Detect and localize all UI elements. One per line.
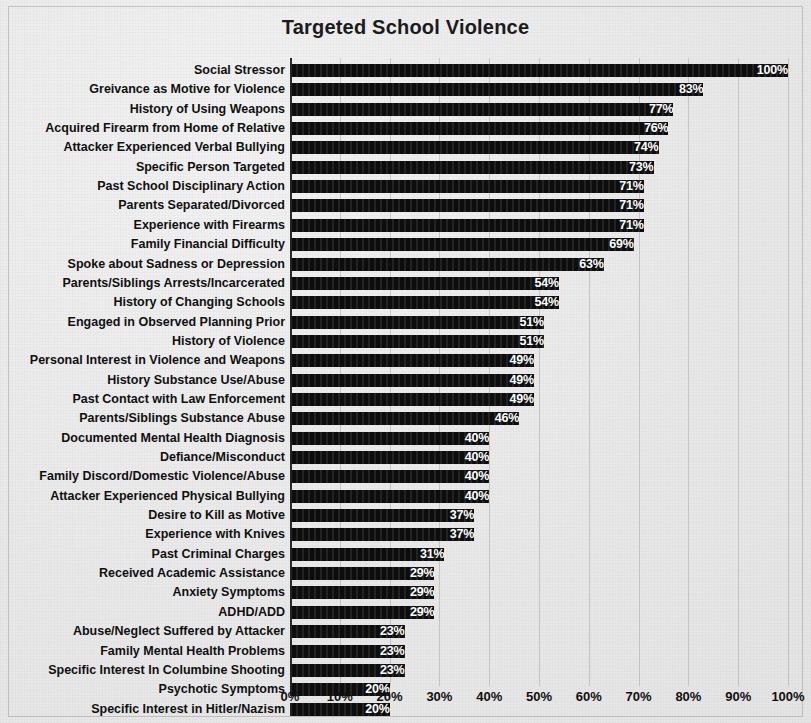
x-axis-tick: 40% bbox=[476, 689, 502, 704]
bar-row: History of Changing Schools54% bbox=[0, 294, 811, 313]
bar-value-label: 69% bbox=[290, 238, 636, 251]
bar-value-label: 40% bbox=[290, 432, 491, 445]
bar-value-label: 37% bbox=[290, 509, 476, 522]
bar-track: 40% bbox=[290, 451, 788, 464]
bar-category-label: Anxiety Symptoms bbox=[172, 585, 285, 599]
bar-category-label: Specific Interest In Columbine Shooting bbox=[48, 663, 285, 677]
bar-row: Received Academic Assistance29% bbox=[0, 565, 811, 584]
bar-track: 29% bbox=[290, 606, 788, 619]
bar-row: Experience with Knives37% bbox=[0, 526, 811, 545]
bar-value-label: 29% bbox=[290, 586, 436, 599]
bar-track: 40% bbox=[290, 490, 788, 503]
bar-row: Anxiety Symptoms29% bbox=[0, 584, 811, 603]
bar-row: Specific Interest In Columbine Shooting2… bbox=[0, 662, 811, 681]
bar-value-label: 100% bbox=[290, 64, 790, 77]
bar-value-label: 40% bbox=[290, 490, 491, 503]
bar-category-label: Greivance as Motive for Violence bbox=[89, 82, 285, 96]
bar-row: Social Stressor100% bbox=[0, 62, 811, 81]
bar-track: 49% bbox=[290, 393, 788, 406]
bar-track: 71% bbox=[290, 199, 788, 212]
bar-value-label: 71% bbox=[290, 199, 646, 212]
bar-row: Desire to Kill as Motive37% bbox=[0, 507, 811, 526]
bar-row: Past Criminal Charges31% bbox=[0, 546, 811, 565]
x-axis-tick: 50% bbox=[526, 689, 552, 704]
bar-track: 74% bbox=[290, 141, 788, 154]
bar-row: Experience with Firearms71% bbox=[0, 217, 811, 236]
bar-track: 46% bbox=[290, 412, 788, 425]
bar-value-label: 49% bbox=[290, 374, 536, 387]
x-axis-tick: 20% bbox=[377, 689, 403, 704]
bar-category-label: Defiance/Misconduct bbox=[160, 450, 285, 464]
bar-track: 51% bbox=[290, 335, 788, 348]
bar-category-label: Past Criminal Charges bbox=[152, 547, 285, 561]
bar-row: ADHD/ADD29% bbox=[0, 604, 811, 623]
bar-row: History of Using Weapons77% bbox=[0, 101, 811, 120]
bar-track: 100% bbox=[290, 64, 788, 77]
bar-row: Personal Interest in Violence and Weapon… bbox=[0, 352, 811, 371]
bar-row: Family Mental Health Problems23% bbox=[0, 643, 811, 662]
bar-track: 49% bbox=[290, 354, 788, 367]
bar-value-label: 23% bbox=[290, 664, 407, 677]
bar-track: 23% bbox=[290, 625, 788, 638]
bar-category-label: Desire to Kill as Motive bbox=[148, 508, 285, 522]
bar-row: Documented Mental Health Diagnosis40% bbox=[0, 430, 811, 449]
bar-value-label: 76% bbox=[290, 122, 670, 135]
bar-track: 51% bbox=[290, 316, 788, 329]
bar-row: Defiance/Misconduct40% bbox=[0, 449, 811, 468]
bar-category-label: Family Discord/Domestic Violence/Abuse bbox=[39, 469, 285, 483]
bar-category-label: Spoke about Sadness or Depression bbox=[68, 257, 285, 271]
bar-track: 73% bbox=[290, 161, 788, 174]
bar-track: 40% bbox=[290, 432, 788, 445]
bar-row: Specific Person Targeted73% bbox=[0, 159, 811, 178]
bar-category-label: Family Financial Difficulty bbox=[131, 237, 285, 251]
bar-value-label: 40% bbox=[290, 470, 491, 483]
bar-category-label: Documented Mental Health Diagnosis bbox=[61, 431, 285, 445]
bar-track: 69% bbox=[290, 238, 788, 251]
bar-category-label: Attacker Experienced Physical Bullying bbox=[50, 489, 285, 503]
bar-category-label: Experience with Firearms bbox=[134, 218, 285, 232]
bar-category-label: Parents/Siblings Arrests/Incarcerated bbox=[62, 276, 285, 290]
bar-track: 71% bbox=[290, 219, 788, 232]
x-axis-tick: 30% bbox=[426, 689, 452, 704]
bar-value-label: 31% bbox=[290, 548, 446, 561]
bar-value-label: 29% bbox=[290, 567, 436, 580]
bar-row: Acquired Firearm from Home of Relative76… bbox=[0, 120, 811, 139]
bar-track: 23% bbox=[290, 664, 788, 677]
bar-value-label: 63% bbox=[290, 258, 606, 271]
bar-category-label: History of Using Weapons bbox=[130, 102, 285, 116]
bar-category-label: Family Mental Health Problems bbox=[100, 644, 285, 658]
bar-track: 37% bbox=[290, 528, 788, 541]
bar-row: Attacker Experienced Verbal Bullying74% bbox=[0, 139, 811, 158]
bar-value-label: 40% bbox=[290, 451, 491, 464]
bar-category-label: History of Changing Schools bbox=[113, 295, 285, 309]
x-axis-tick: 100% bbox=[771, 689, 804, 704]
bar-row: Family Financial Difficulty69% bbox=[0, 236, 811, 255]
bar-track: 23% bbox=[290, 645, 788, 658]
bar-value-label: 29% bbox=[290, 606, 436, 619]
bar-track: 63% bbox=[290, 258, 788, 271]
bar-row: Parents Separated/Divorced71% bbox=[0, 197, 811, 216]
bar-row: Past Contact with Law Enforcement49% bbox=[0, 391, 811, 410]
bar-value-label: 51% bbox=[290, 316, 546, 329]
bar-row: Family Discord/Domestic Violence/Abuse40… bbox=[0, 468, 811, 487]
bar-track: 71% bbox=[290, 180, 788, 193]
bar-row: Past School Disciplinary Action71% bbox=[0, 178, 811, 197]
bar-row: Parents/Siblings Arrests/Incarcerated54% bbox=[0, 275, 811, 294]
bar-category-label: Engaged in Observed Planning Prior bbox=[68, 315, 285, 329]
bar-chart-plot-area: Social Stressor100%Greivance as Motive f… bbox=[0, 0, 811, 723]
x-axis-tick: 80% bbox=[675, 689, 701, 704]
bar-category-label: History Substance Use/Abuse bbox=[107, 373, 285, 387]
bar-category-label: Personal Interest in Violence and Weapon… bbox=[30, 353, 285, 367]
bar-value-label: 51% bbox=[290, 335, 546, 348]
bar-value-label: 54% bbox=[290, 277, 561, 290]
bar-track: 29% bbox=[290, 586, 788, 599]
bar-value-label: 74% bbox=[290, 141, 661, 154]
bar-value-label: 77% bbox=[290, 103, 675, 116]
bar-value-label: 37% bbox=[290, 528, 476, 541]
bar-track: 83% bbox=[290, 83, 788, 96]
bar-row: Engaged in Observed Planning Prior51% bbox=[0, 314, 811, 333]
bar-track: 76% bbox=[290, 122, 788, 135]
bar-category-label: Acquired Firearm from Home of Relative bbox=[45, 121, 285, 135]
bar-row: Abuse/Neglect Suffered by Attacker23% bbox=[0, 623, 811, 642]
bar-value-label: 23% bbox=[290, 645, 407, 658]
